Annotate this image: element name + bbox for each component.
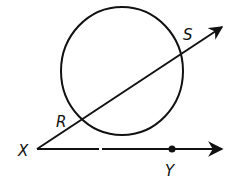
label-r: R xyxy=(56,113,66,131)
label-s: S xyxy=(183,26,193,44)
label-x: X xyxy=(17,142,29,160)
circle xyxy=(61,7,183,135)
point-y-dot xyxy=(169,146,176,153)
geometry-diagram: X R S Y xyxy=(0,0,240,183)
label-y: Y xyxy=(165,162,176,180)
